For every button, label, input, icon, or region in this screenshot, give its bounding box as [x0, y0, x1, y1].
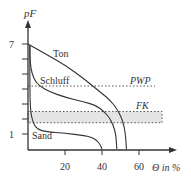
x-tick-label: 20 [60, 161, 70, 172]
x-tick-label: 40 [97, 161, 107, 172]
y-tick-label: 7 [9, 39, 14, 50]
ticks: 17204060 [9, 39, 144, 173]
fk-band-layer [28, 112, 162, 123]
label-fk: FK [135, 100, 150, 111]
y-axis-arrow-icon [25, 20, 31, 28]
label-ton: Ton [53, 48, 68, 59]
label-schluff: Schluff [40, 75, 70, 86]
y-tick-label: 1 [9, 129, 14, 140]
fk-band [28, 112, 162, 123]
x-axis-label: Θ in % [152, 162, 180, 173]
x-axis-arrow-icon [169, 147, 177, 153]
x-tick-label: 60 [134, 161, 144, 172]
label-sand: Sand [32, 130, 52, 141]
y-axis-label: pF [23, 7, 37, 19]
label-pwp: PWP [129, 75, 151, 86]
pf-curve-chart: 17204060 pF Θ in % Ton Schluff Sand PWP … [0, 0, 191, 186]
